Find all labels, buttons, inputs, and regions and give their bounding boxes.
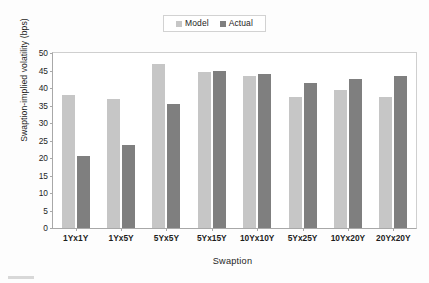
bar-actual (77, 156, 90, 228)
legend-swatch-actual (220, 21, 226, 27)
bar-model (379, 97, 392, 228)
legend-entry-actual: Actual (220, 19, 253, 28)
bar-group: 5Yx15Y (189, 53, 234, 228)
x-axis-title: Swaption (50, 256, 415, 266)
bar-actual (258, 74, 271, 228)
x-axis-tick-label: 5Yx5Y (154, 233, 179, 243)
x-axis-tick-mark (303, 228, 304, 231)
x-axis-tick-mark (121, 228, 122, 231)
y-axis-tick-label: 15 (39, 171, 48, 180)
x-axis-tick-mark (76, 228, 77, 231)
bar-model (243, 76, 256, 228)
y-axis-tick-label: 30 (39, 119, 48, 128)
y-axis-tick-label: 40 (39, 84, 48, 93)
y-axis-tick-label: 10 (39, 189, 48, 198)
bar-actual (167, 104, 180, 228)
y-axis-title: Swaption-implied volatility (bps) (19, 0, 29, 170)
y-axis-tick-mark (50, 228, 53, 229)
bar-actual (122, 145, 135, 228)
x-axis-tick-mark (166, 228, 167, 231)
x-axis-tick-label: 1Yx5Y (108, 233, 133, 243)
bar-actual (394, 76, 407, 228)
x-axis-tick-mark (348, 228, 349, 231)
x-axis-tick-label: 5Yx25Y (288, 233, 318, 243)
x-axis-tick-mark (393, 228, 394, 231)
bar-group: 5Yx25Y (280, 53, 325, 228)
y-axis-tick-label: 20 (39, 154, 48, 163)
bar-actual (304, 83, 317, 228)
legend-swatch-model (176, 21, 182, 27)
legend-label-actual: Actual (229, 19, 253, 28)
x-axis-tick-mark (257, 228, 258, 231)
legend-entry-model: Model (176, 19, 209, 28)
y-axis-tick-label: 25 (39, 136, 48, 145)
plot-inner: 504540353025201510501Yx1Y1Yx5Y5Yx5Y5Yx15… (53, 53, 416, 228)
bar-model (107, 99, 120, 228)
bar-group: 1Yx1Y (53, 53, 98, 228)
bar-group: 5Yx5Y (144, 53, 189, 228)
y-axis-tick-label: 45 (39, 66, 48, 75)
plot-area: 504540353025201510501Yx1Y1Yx5Y5Yx5Y5Yx15… (52, 52, 417, 229)
bar-model (152, 64, 165, 229)
y-axis-tick-label: 50 (39, 49, 48, 58)
chart-legend: Model Actual (163, 15, 266, 32)
chart-figure: Model Actual Swaption-implied volatility… (0, 0, 429, 283)
bar-model (289, 97, 302, 228)
bar-actual (349, 79, 362, 228)
y-axis-tick-label: 5 (43, 206, 48, 215)
bar-group: 10Yx10Y (235, 53, 280, 228)
bar-model (62, 95, 75, 228)
x-axis-tick-label: 5Yx15Y (197, 233, 227, 243)
bar-group: 10Yx20Y (325, 53, 370, 228)
x-axis-tick-label: 20Yx20Y (376, 233, 410, 243)
scan-artifact (8, 276, 34, 279)
bar-model (334, 90, 347, 228)
bar-group: 1Yx5Y (98, 53, 143, 228)
x-axis-tick-label: 10Yx10Y (240, 233, 274, 243)
x-axis-tick-label: 10Yx20Y (331, 233, 365, 243)
x-axis-tick-mark (212, 228, 213, 231)
y-axis-tick-label: 0 (43, 224, 48, 233)
legend-label-model: Model (185, 19, 209, 28)
bar-model (198, 72, 211, 228)
bar-actual (213, 71, 226, 229)
bar-group: 20Yx20Y (371, 53, 416, 228)
y-axis-tick-label: 35 (39, 101, 48, 110)
x-axis-tick-label: 1Yx1Y (63, 233, 88, 243)
